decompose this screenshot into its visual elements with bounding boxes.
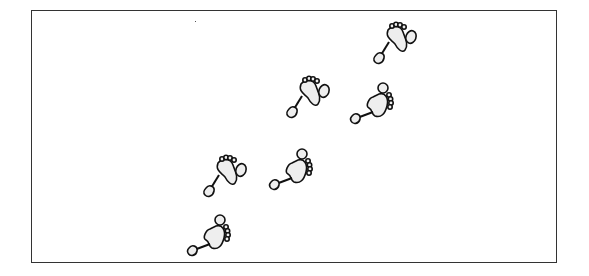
stray-dot	[195, 21, 196, 22]
footprint-icon	[365, 18, 425, 78]
drawing-frame	[31, 10, 557, 263]
footprint-4	[195, 151, 255, 211]
footprint-5	[262, 144, 322, 204]
footprint-3	[343, 78, 403, 138]
footprint-6	[180, 210, 240, 270]
footprint-icon	[278, 72, 338, 132]
footprint-1	[365, 18, 425, 78]
footprint-icon	[343, 78, 403, 138]
footprint-icon	[180, 210, 240, 270]
footprint-icon	[262, 144, 322, 204]
footprint-icon	[195, 151, 255, 211]
footprint-2	[278, 72, 338, 132]
